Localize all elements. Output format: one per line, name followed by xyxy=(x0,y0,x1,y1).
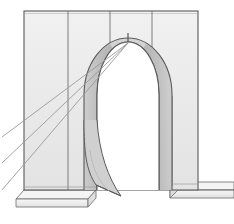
architectural-arch-drawing: Arch Construction Perspective Sketch xyxy=(0,0,234,224)
right-plinth-front-face xyxy=(170,190,234,198)
left-plinth-top-face xyxy=(16,190,96,199)
left-plinth xyxy=(16,190,96,207)
left-plinth-front-face xyxy=(16,199,88,207)
